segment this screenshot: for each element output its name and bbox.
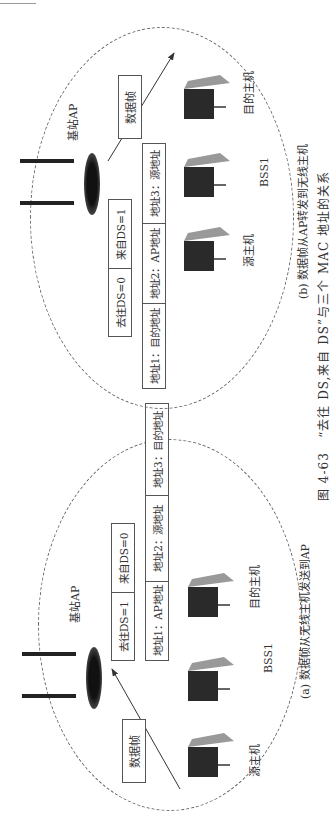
address-row: 地址1：目的地址 地址2：AP地址 地址3：源地址 [142,143,166,389]
dest-host-label: 目的主机 [240,71,256,115]
laptop-icon [184,657,236,703]
dest-host-label: 目的主机 [246,565,262,609]
data-frame-box: 数据帧 [122,719,146,783]
panel-b-caption: (b) 数据帧从AP转发到无线主机 [294,144,310,299]
source-host-label: 源主机 [246,744,262,777]
figure-number: 图 4-63 [317,452,331,501]
data-frame-box: 数据帧 [118,75,142,139]
ds-flags-row: 去往DS=1 来自DS=0 [111,523,135,661]
figure-title: “去往 DS,来自 DS”与三个 MAC 地址的关系 [317,171,331,438]
bss-label: BSS1 [262,643,275,673]
address-1: 地址1：目的地址 [143,303,165,388]
laptop-icon [184,573,236,619]
laptop-icon [180,153,232,199]
to-ds-flag: 去往DS=0 [109,268,131,336]
address-row: 地址1：AP地址 地址2：源地址 地址3：目的地址 [145,403,169,661]
figure-canvas: 基站AP 数据帧 去往DS=1 来自DS=0 地址1：AP地址 地址2：源地址 … [0,0,331,819]
address-3: 地址3：源地址 [143,144,165,223]
address-1: 地址1：AP地址 [146,581,168,660]
figure-caption: 图 4-63 “去往 DS,来自 DS”与三个 MAC 地址的关系 [314,171,331,501]
bss-label: BSS1 [258,157,271,187]
laptop-icon [180,227,232,273]
laptop-icon [180,75,232,121]
to-ds-flag: 去往DS=1 [112,592,134,660]
laptop-icon [184,733,236,779]
ds-flags-row: 去往DS=0 来自DS=1 [108,199,132,337]
source-host-label: 源主机 [240,234,256,267]
address-2: 地址2：源地址 [146,495,168,580]
from-ds-flag: 来自DS=1 [109,200,131,268]
address-2: 地址2：AP地址 [143,223,165,302]
panel-a-caption: (a) 数据帧从无线主机发送到AP [296,544,312,699]
from-ds-flag: 来自DS=0 [112,524,134,592]
